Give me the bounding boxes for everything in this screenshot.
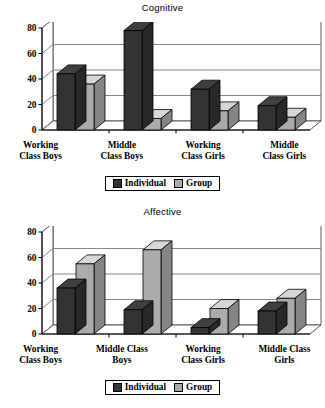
x-axis-label-line: Class Girls	[163, 151, 244, 162]
y-axis-tick-label: 80	[27, 23, 37, 33]
x-axis-category-label: MiddleClass Boys	[81, 140, 162, 174]
x-axis-label-line: Class Girls	[244, 151, 325, 162]
y-axis-tick-label: 0	[32, 329, 37, 339]
legend-swatch-individual-icon	[113, 179, 122, 188]
legend-label-individual: Individual	[125, 178, 166, 188]
y-axis-tick-label: 20	[27, 100, 37, 110]
bar	[124, 301, 153, 334]
legend-item-individual[interactable]: Individual	[113, 178, 166, 188]
x-axis-label-line: Working	[0, 140, 81, 151]
bar	[124, 22, 153, 130]
x-axis-labels: WorkingClass BoysMiddle ClassBoysWorking…	[0, 344, 325, 378]
chart-title: Cognitive	[0, 2, 325, 13]
figure-root: Cognitive020406080WorkingClass BoysMiddl…	[0, 0, 325, 408]
x-axis-label-line: Working	[163, 344, 244, 355]
legend-box: IndividualGroup	[105, 176, 221, 191]
x-axis-label-line: Working	[0, 344, 81, 355]
x-axis-label-line: Middle Class	[244, 344, 325, 355]
plot-area: 020406080	[0, 22, 325, 144]
y-axis-tick-label: 60	[27, 49, 37, 59]
y-axis-tick-label: 60	[27, 253, 37, 263]
y-axis-tick-label: 40	[27, 74, 37, 84]
x-axis-label-line: Class Boys	[0, 355, 81, 366]
x-axis-label-line: Middle	[244, 140, 325, 151]
x-axis-category-label: WorkingClass Girls	[163, 344, 244, 378]
x-axis-category-label: Middle ClassGirls	[244, 344, 325, 378]
x-axis-category-label: MiddleClass Girls	[244, 140, 325, 174]
bar	[191, 80, 220, 130]
legend-box: IndividualGroup	[105, 380, 221, 395]
legend-item-individual[interactable]: Individual	[113, 382, 166, 392]
x-axis-category-label: Middle ClassBoys	[81, 344, 162, 378]
legend-label-group: Group	[186, 178, 212, 188]
x-axis-label-line: Class Boys	[81, 151, 162, 162]
legend-swatch-group-icon	[174, 179, 183, 188]
x-axis-label-line: Girls	[244, 355, 325, 366]
x-axis-label-line: Class Girls	[163, 355, 244, 366]
legend-swatch-individual-icon	[113, 383, 122, 392]
x-axis-label-line: Middle	[81, 140, 162, 151]
x-axis-category-label: WorkingClass Boys	[0, 344, 81, 378]
x-axis-label-line: Boys	[81, 355, 162, 366]
y-axis-tick-label: 20	[27, 304, 37, 314]
bar	[57, 65, 86, 130]
y-axis-tick-label: 0	[32, 125, 37, 135]
x-axis-category-label: WorkingClass Girls	[163, 140, 244, 174]
chart-title: Affective	[0, 206, 325, 217]
y-axis-tick-label: 40	[27, 278, 37, 288]
bar	[57, 279, 86, 334]
x-axis-category-label: WorkingClass Boys	[0, 140, 81, 174]
chart-legend: IndividualGroup	[0, 176, 325, 191]
legend-label-individual: Individual	[125, 382, 166, 392]
x-axis-label-line: Class Boys	[0, 151, 81, 162]
legend-item-group[interactable]: Group	[174, 178, 212, 188]
legend-swatch-group-icon	[174, 383, 183, 392]
y-axis-tick-label: 80	[27, 227, 37, 237]
x-axis-labels: WorkingClass BoysMiddleClass BoysWorking…	[0, 140, 325, 174]
chart-legend: IndividualGroup	[0, 380, 325, 395]
chart-cognitive: Cognitive020406080WorkingClass BoysMiddl…	[0, 0, 325, 204]
legend-label-group: Group	[186, 382, 212, 392]
chart-affective: Affective020406080WorkingClass BoysMiddl…	[0, 204, 325, 408]
bar	[258, 97, 287, 130]
x-axis-label-line: Working	[163, 140, 244, 151]
legend-item-group[interactable]: Group	[174, 382, 212, 392]
plot-area: 020406080	[0, 226, 325, 348]
x-axis-label-line: Middle Class	[81, 344, 162, 355]
